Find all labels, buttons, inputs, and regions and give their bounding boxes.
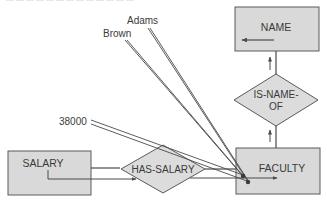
link-node-dot	[241, 174, 245, 178]
entity-salary-label: SALARY	[22, 157, 63, 169]
value-brown: Brown	[103, 28, 131, 39]
is-name-of-label-line2: OF	[269, 101, 283, 112]
entity-name[interactable]: NAME	[235, 7, 319, 51]
entity-salary[interactable]: SALARY	[8, 151, 91, 195]
link-node-dot	[246, 180, 250, 184]
is-name-of-label-line1: IS-NAME-	[254, 89, 299, 100]
entity-faculty-label: FACULTY	[259, 162, 305, 174]
entity-name-label: NAME	[261, 21, 291, 33]
entity-faculty[interactable]: FACULTY	[236, 148, 320, 194]
value-38000: 38000	[59, 116, 87, 127]
semantic-network-diagram: NAME IS-NAME- OF FACULTY SALARY HAS-SALA…	[0, 0, 327, 200]
relationship-is-name-of[interactable]: IS-NAME- OF	[234, 74, 318, 126]
relationship-has-salary[interactable]: HAS-SALARY	[121, 145, 205, 193]
has-salary-label: HAS-SALARY	[131, 164, 195, 175]
value-adams: Adams	[127, 15, 158, 26]
